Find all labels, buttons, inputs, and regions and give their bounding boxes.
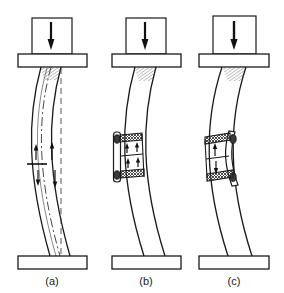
weld-band-upper	[120, 133, 142, 142]
top-base-plate	[112, 54, 181, 67]
top-base-plate	[18, 54, 87, 67]
bolt-upper	[114, 135, 120, 143]
figure-container: (a)	[0, 0, 284, 293]
weld-band-lower	[121, 169, 144, 178]
panel-caption-c: (c)	[228, 275, 241, 287]
bolt-upper	[230, 135, 236, 144]
bolt-lower	[114, 171, 120, 179]
top-base-plate	[199, 54, 269, 67]
diagram-svg: (a)	[0, 0, 284, 293]
panel-caption-b: (b)	[139, 275, 152, 287]
bottom-base-plate	[199, 256, 269, 269]
panel-caption-a: (a)	[45, 275, 58, 287]
bottom-base-plate	[112, 256, 181, 269]
bottom-base-plate	[18, 256, 87, 269]
